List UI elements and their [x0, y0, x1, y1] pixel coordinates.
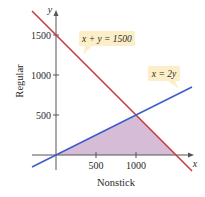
x-axis-arrow-icon	[188, 153, 194, 158]
y-tick-label-1500: 1500	[31, 30, 51, 41]
equation-label-red: x + y = 1500	[81, 34, 132, 44]
x-tick-label-500: 500	[89, 160, 104, 171]
linear-programming-chart: 500 1000 500 1000 1500 x y Nonstick Regu…	[0, 0, 205, 197]
y-axis-variable: y	[47, 4, 53, 15]
y-tick-label-500: 500	[36, 110, 51, 121]
callout-x-plus-y-1500: x + y = 1500	[79, 31, 135, 55]
callout-x-equals-2y: x = 2y	[148, 66, 180, 89]
y-axis-title: Regular	[14, 64, 25, 98]
x-axis-title: Nonstick	[97, 177, 136, 188]
feasible-region	[56, 115, 176, 155]
x-axis-variable: x	[192, 158, 198, 169]
equation-label-blue: x = 2y	[151, 69, 177, 79]
y-axis-arrow-icon	[54, 10, 59, 16]
y-tick-label-1000: 1000	[31, 70, 51, 81]
x-tick-label-1000: 1000	[126, 160, 146, 171]
